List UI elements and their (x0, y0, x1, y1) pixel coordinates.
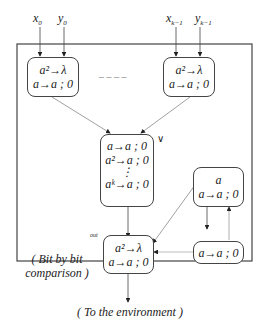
rule: a→a ; 0 (194, 246, 243, 260)
input-neuron-k-1: a²→λ a→a ; 0 (163, 57, 215, 97)
rule: a²→λ (28, 63, 78, 77)
self-loop-neuron-bottom: a→a ; 0 (193, 241, 244, 264)
environment-note: ( To the environment ) (70, 305, 190, 319)
vertical-ellipsis: ⋮ (101, 167, 153, 177)
self-loop-neuron-top: a a→a ; 0 (193, 167, 244, 207)
or-label: ∨ (157, 133, 164, 145)
spike: a (194, 173, 243, 187)
or-neuron: a→a ; 0 a²→a ; 0 ⋮ aᵏ→a ; 0 (100, 134, 154, 207)
ellipsis-dashes: – – – – (99, 71, 127, 83)
rule: a²→λ (164, 63, 214, 77)
out-label: out (90, 232, 98, 238)
input-x0-label: x0 (33, 12, 42, 29)
input-y0-label: y0 (58, 12, 67, 29)
rule: a→a ; 0 (164, 77, 214, 91)
rule: a→a ; 0 (28, 77, 78, 91)
comparison-note: ( Bit by bit comparison ) (22, 252, 92, 280)
rule: aᵏ→a ; 0 (101, 177, 153, 191)
input-xk-label: xk−1 (166, 12, 183, 29)
rule: a→a ; 0 (101, 139, 153, 153)
output-neuron: a²→λ a→a ; 0 (103, 235, 154, 274)
rule: a→a ; 0 (194, 187, 243, 201)
input-neuron-0: a²→λ a→a ; 0 (27, 57, 79, 97)
rule: a→a ; 0 (104, 255, 153, 269)
rule: a²→λ (104, 241, 153, 255)
input-yk-label: yk−1 (195, 12, 212, 29)
